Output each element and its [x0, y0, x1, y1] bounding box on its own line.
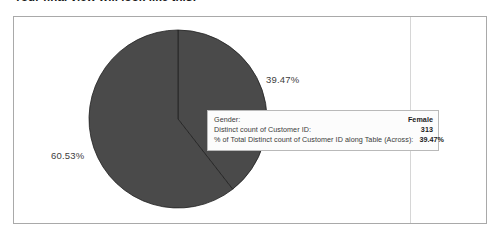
- tooltip-key: % of Total Distinct count of Customer ID…: [214, 135, 419, 145]
- tooltip-value: 313: [421, 125, 433, 135]
- tooltip-key: Distinct count of Customer ID:: [214, 125, 317, 135]
- tooltip-row: % of Total Distinct count of Customer ID…: [214, 135, 433, 145]
- tooltip-key: Gender:: [214, 115, 246, 125]
- page-heading: Your final view will look like this:: [14, 0, 454, 3]
- chart-tooltip: Gender: Female Distinct count of Custome…: [207, 110, 439, 151]
- tooltip-row: Distinct count of Customer ID: 313: [214, 125, 433, 135]
- pie-slice-label-female: 39.47%: [266, 74, 299, 85]
- chart-frame: 39.47% 60.53% Gender: Female Distinct co…: [13, 16, 487, 224]
- pie-slice-label-male: 60.53%: [51, 150, 84, 161]
- tooltip-value: 39.47%: [419, 135, 444, 145]
- tooltip-value: Female: [408, 115, 433, 125]
- tooltip-row: Gender: Female: [214, 115, 433, 125]
